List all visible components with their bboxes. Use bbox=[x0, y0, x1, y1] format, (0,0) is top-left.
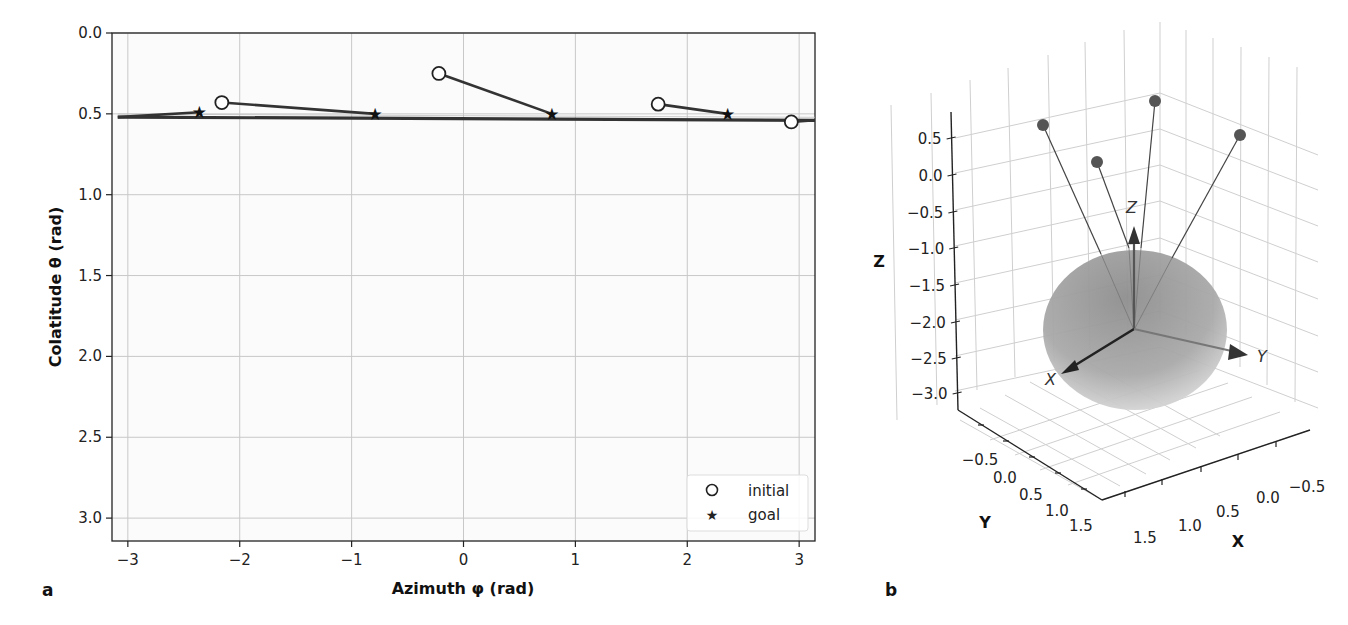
frame-label-x: X bbox=[1044, 370, 1057, 389]
initial-circle-icon bbox=[652, 98, 665, 111]
x-tick-label: 1.5 bbox=[1133, 529, 1157, 547]
mass-dot-3 bbox=[1149, 95, 1161, 107]
panel-a-chart: −3−2−101230.00.51.01.52.02.53.0 ★★★★ ini… bbox=[0, 0, 860, 625]
x-tick-label: −0.5 bbox=[1289, 478, 1325, 496]
panel-letter-b: b bbox=[885, 580, 897, 600]
mass-dot-1 bbox=[1037, 119, 1049, 131]
mass-dot-2 bbox=[1091, 156, 1103, 168]
x-tick-label: −1 bbox=[341, 551, 363, 569]
z-tick-label: −1.5 bbox=[909, 277, 945, 295]
y3d-axis-title: Y bbox=[978, 513, 991, 532]
z-tick-label: 0.5 bbox=[918, 130, 942, 148]
y-tick-label: 1.0 bbox=[78, 186, 102, 204]
x-tick-label: 0.0 bbox=[1256, 489, 1280, 507]
goal-star-icon: ★ bbox=[544, 104, 559, 124]
y-tick-label: 1.5 bbox=[78, 267, 102, 285]
z-tick-label: −3.0 bbox=[911, 385, 947, 403]
x-axis-title: Azimuth φ (rad) bbox=[392, 579, 535, 598]
z-tick-label: −0.5 bbox=[907, 204, 943, 222]
z-axis-title: Z bbox=[873, 252, 885, 271]
y-tick-label: 0.5 bbox=[1019, 486, 1043, 504]
initial-circle-icon bbox=[215, 96, 228, 109]
z-tick-label: −2.0 bbox=[909, 314, 945, 332]
y-tick-label: 2.0 bbox=[78, 347, 102, 365]
mass-dot-4 bbox=[1234, 129, 1246, 141]
initial-circle-icon bbox=[432, 67, 445, 80]
x-tick-label: 1.0 bbox=[1178, 517, 1202, 535]
point-masses bbox=[1037, 95, 1246, 168]
frame-y-arrowhead-icon bbox=[1228, 344, 1248, 360]
y-tick-label: 1.0 bbox=[1045, 502, 1069, 520]
frame-label-z: Z bbox=[1125, 198, 1138, 217]
y-tick-label: 0.0 bbox=[993, 469, 1017, 487]
tethers bbox=[1043, 101, 1240, 258]
x-tick-label: 0.5 bbox=[1216, 503, 1240, 521]
z-tick-label: −1.0 bbox=[908, 240, 944, 258]
frame-label-y: Y bbox=[1257, 347, 1268, 366]
legend-goal-label: goal bbox=[748, 506, 780, 524]
panel-letter-a: a bbox=[42, 580, 53, 600]
x-tick-label: 0 bbox=[459, 551, 469, 569]
initial-circle-icon bbox=[785, 115, 798, 128]
z-tick-label: 0.0 bbox=[919, 167, 943, 185]
goal-star-icon: ★ bbox=[720, 104, 735, 124]
legend-goal-marker-icon: ★ bbox=[706, 507, 719, 523]
legend: initial ★ goal bbox=[687, 475, 808, 531]
legend-initial-marker-icon bbox=[707, 485, 718, 496]
y-tick-label: 1.5 bbox=[1069, 517, 1093, 535]
y-tick-label: 0.5 bbox=[78, 105, 102, 123]
z-tick-label: −2.5 bbox=[910, 350, 946, 368]
x3d-axis-title: X bbox=[1232, 532, 1245, 551]
y-tick-label: 2.5 bbox=[78, 428, 102, 446]
x-tick-label: 1 bbox=[571, 551, 581, 569]
frame-z-arrowhead-icon bbox=[1128, 226, 1140, 244]
y-tick-label: 3.0 bbox=[78, 509, 102, 527]
x-tick-label: −2 bbox=[229, 551, 251, 569]
x-tick-label: −3 bbox=[117, 551, 139, 569]
legend-initial-label: initial bbox=[748, 482, 789, 500]
x-tick-label: 2 bbox=[682, 551, 692, 569]
y-axis-title: Colatitude θ (rad) bbox=[46, 207, 65, 367]
y-tick-label: 0.0 bbox=[78, 24, 102, 42]
panel-b-3d-chart: 0.50.0−0.5−1.0−1.5−2.0−2.5−3.0 −0.50.00.… bbox=[860, 0, 1348, 625]
goal-star-icon: ★ bbox=[192, 102, 207, 122]
x-tick-label: 3 bbox=[794, 551, 804, 569]
x-axis-ticks: −0.50.00.51.01.5 bbox=[1125, 441, 1325, 547]
goal-star-icon: ★ bbox=[367, 104, 382, 124]
y-tick-label: −0.5 bbox=[962, 451, 998, 469]
z-axis-line bbox=[951, 112, 958, 410]
